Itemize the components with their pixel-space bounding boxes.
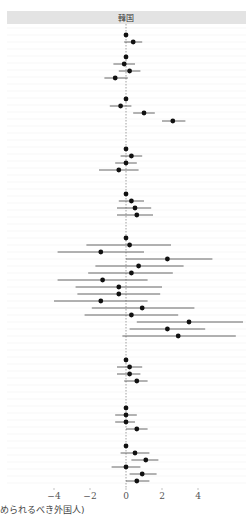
- point-estimate: [134, 479, 139, 484]
- point-estimate: [124, 192, 129, 197]
- x-axis: −4−2024: [47, 488, 201, 501]
- point-estimate: [165, 327, 170, 332]
- point-estimate: [124, 236, 129, 241]
- point-estimate: [129, 199, 134, 204]
- point-estimate: [124, 147, 129, 152]
- point-estimate: [134, 213, 139, 218]
- point-estimate: [122, 62, 127, 67]
- estimate-row: [124, 33, 129, 38]
- point-estimate: [124, 33, 129, 38]
- point-estimate: [136, 264, 141, 269]
- point-estimate: [100, 278, 105, 283]
- point-estimate: [124, 413, 129, 418]
- x-axis-label: められるべき外国人): [0, 503, 85, 516]
- point-estimate: [116, 285, 121, 290]
- x-tick-label: −2: [83, 491, 96, 501]
- estimate-row: [124, 406, 129, 411]
- point-estimate: [133, 451, 138, 456]
- point-estimate: [133, 206, 138, 211]
- panel-title: 韓国: [118, 13, 134, 23]
- point-estimate: [129, 271, 134, 276]
- point-estimate: [124, 406, 129, 411]
- estimate-row: [124, 147, 129, 152]
- estimate-row: [124, 444, 129, 449]
- point-estimate: [113, 76, 118, 81]
- x-tick-label: 0: [123, 491, 129, 501]
- x-tick-label: 2: [159, 491, 165, 501]
- point-estimate: [134, 379, 139, 384]
- forest-plot: 韓国 −4−2024: [0, 0, 252, 521]
- point-estimate: [124, 97, 129, 102]
- point-estimate: [134, 427, 139, 432]
- point-estimate: [129, 313, 134, 318]
- estimate-row: [124, 358, 129, 363]
- point-estimate: [98, 299, 103, 304]
- point-estimate: [127, 243, 132, 248]
- point-estimate: [129, 154, 134, 159]
- point-estimate: [127, 372, 132, 377]
- point-estimate: [140, 306, 145, 311]
- point-estimate: [116, 292, 121, 297]
- point-estimate: [98, 250, 103, 255]
- point-estimate: [176, 334, 181, 339]
- point-estimate: [118, 104, 123, 109]
- point-estimate: [124, 55, 129, 60]
- point-estimate: [127, 69, 132, 74]
- x-tick-label: 4: [195, 491, 201, 501]
- point-estimate: [143, 458, 148, 463]
- point-estimate: [170, 119, 175, 124]
- estimate-row: [124, 55, 129, 60]
- x-tick-label: −4: [47, 491, 61, 501]
- estimate-row: [124, 97, 129, 102]
- point-estimate: [124, 358, 129, 363]
- point-estimate: [124, 161, 129, 166]
- point-estimate: [124, 465, 129, 470]
- estimate-row: [124, 236, 129, 241]
- point-estimate: [127, 365, 132, 370]
- point-estimate: [142, 111, 147, 116]
- panel-background: [7, 24, 246, 488]
- point-estimate: [187, 320, 192, 325]
- point-estimate: [124, 444, 129, 449]
- point-estimate: [165, 257, 170, 262]
- point-estimate: [116, 168, 121, 173]
- estimate-row: [124, 192, 129, 197]
- point-estimate: [140, 472, 145, 477]
- point-estimate: [131, 40, 136, 45]
- point-estimate: [124, 420, 129, 425]
